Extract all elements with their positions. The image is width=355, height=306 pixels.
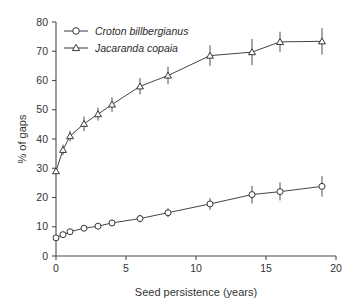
data-point-open-circle: [53, 235, 59, 241]
y-tick-label: 0: [42, 250, 48, 262]
series-croton: [53, 176, 325, 241]
legend-label-croton: Croton billbergianus: [95, 25, 189, 37]
data-point-open-triangle: [95, 111, 102, 117]
data-point-open-circle: [277, 189, 283, 195]
y-axis-tick-labels: 01020304050607080: [36, 16, 48, 262]
data-point-open-triangle: [109, 101, 116, 107]
x-axis-tick-labels: 05101520: [53, 262, 342, 274]
data-point-open-circle: [67, 229, 73, 235]
data-series-layer: [53, 28, 326, 241]
legend-marker-open-triangle: [72, 44, 79, 50]
y-tick-label: 60: [36, 74, 48, 86]
y-axis-title: % of gaps: [16, 114, 28, 163]
data-point-open-triangle: [165, 72, 172, 78]
chart-legend: Croton billbergianus Jacaranda copaia: [64, 25, 189, 54]
data-point-open-circle: [207, 201, 213, 207]
data-point-open-circle: [165, 210, 171, 216]
y-tick-label: 70: [36, 45, 48, 57]
axis-tick-marks: [52, 22, 336, 260]
y-tick-label: 20: [36, 191, 48, 203]
chart-figure: 01020304050607080 05101520 % of gaps See…: [0, 0, 355, 306]
data-point-open-triangle: [60, 147, 67, 153]
legend-label-jacaranda: Jacaranda copaia: [94, 42, 178, 54]
data-point-open-circle: [109, 220, 115, 226]
y-tick-label: 80: [36, 16, 48, 28]
data-point-open-triangle: [249, 49, 256, 55]
series-line: [56, 41, 322, 171]
scatter-line-plot: 01020304050607080 05101520 % of gaps See…: [0, 0, 355, 306]
legend-item-jacaranda: Jacaranda copaia: [64, 42, 178, 54]
y-tick-label: 40: [36, 133, 48, 145]
data-point-open-circle: [249, 192, 255, 198]
x-tick-label: 10: [190, 262, 202, 274]
x-tick-label: 15: [260, 262, 272, 274]
data-point-open-circle: [60, 232, 66, 238]
data-point-open-circle: [95, 223, 101, 229]
data-point-open-triangle: [137, 83, 144, 89]
legend-marker-open-circle: [73, 28, 80, 35]
x-axis-title: Seed persistence (years): [135, 286, 257, 298]
data-point-open-circle: [81, 225, 87, 231]
y-tick-label: 10: [36, 220, 48, 232]
y-tick-label: 50: [36, 103, 48, 115]
x-tick-label: 20: [330, 262, 342, 274]
x-tick-label: 0: [53, 262, 59, 274]
data-point-open-circle: [137, 216, 143, 222]
series-jacaranda: [53, 28, 326, 174]
data-point-open-circle: [319, 183, 325, 189]
x-tick-label: 5: [123, 262, 129, 274]
y-tick-label: 30: [36, 162, 48, 174]
legend-item-croton: Croton billbergianus: [64, 25, 189, 37]
data-point-open-triangle: [81, 120, 88, 126]
